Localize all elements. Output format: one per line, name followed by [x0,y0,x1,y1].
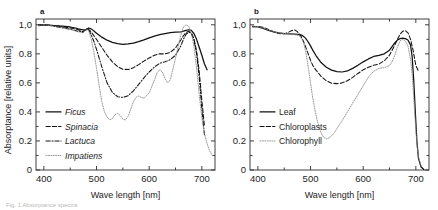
figure-container: a4005006007001,00.80.60.40.20FicusSpinac… [0,0,438,210]
y-tick-label: 1,0 [233,19,246,30]
x-tick-label: 600 [355,173,371,184]
x-tick-label: 700 [408,173,424,184]
y-tick-label: 0.4 [19,106,32,117]
x-tick-label: 400 [36,173,52,184]
legend-label-ficus: Ficus [65,107,86,117]
y-tick-label: 0.6 [19,77,32,88]
legend-label-lactuca: Lactuca [65,136,95,146]
x-tick-label: 500 [89,173,105,184]
panel-letter: a [40,7,45,16]
y-tick-label: 0.6 [233,77,246,88]
panel-b: b4005006007001,00.80.60.40.20LeafChlorop… [233,7,429,200]
y-tick-label: 1,0 [19,19,32,30]
x-axis-label: Wave length [nm] [305,190,375,200]
legend-label-chlorophyll: Chlorophyll [279,136,322,146]
y-tick-label: 0.8 [19,48,32,59]
plot-frame [36,19,215,170]
absorptance-spectra-figure: a4005006007001,00.80.60.40.20FicusSpinac… [0,0,438,210]
figure-caption: Fig. 1 Absorptance spectra [6,202,78,208]
curve-chloroplasts [253,26,419,83]
y-tick-label: 0 [27,164,32,175]
y-tick-label: 0 [241,164,246,175]
plot-frame [250,19,429,170]
y-tick-label: 0.4 [233,106,246,117]
panel-a: a4005006007001,00.80.60.40.20FicusSpinac… [19,7,215,200]
y-tick-label: 0.2 [19,135,32,146]
legend-label-spinacia: Spinacia [65,122,98,132]
panel-letter: b [254,7,259,16]
y-tick-label: 0.8 [233,48,246,59]
x-tick-label: 500 [303,173,319,184]
curve-leaf [253,26,424,169]
y-tick-label: 0.2 [233,135,246,146]
x-axis-label: Wave length [nm] [91,190,161,200]
x-tick-label: 400 [250,173,266,184]
x-tick-label: 600 [141,173,157,184]
x-tick-label: 700 [194,173,210,184]
legend-label-chloroplasts: Chloroplasts [279,122,327,132]
legend-label-leaf: Leaf [279,107,296,117]
legend-label-impatiens: Impatiens [65,151,103,161]
curve-chlorophyll [253,26,421,165]
y-axis-label: Absorptance [relative units] [3,46,13,155]
